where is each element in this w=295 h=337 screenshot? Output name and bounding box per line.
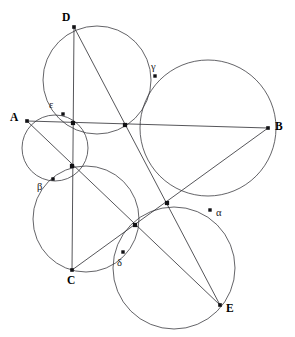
vertex-dot-D	[72, 25, 76, 29]
vertex-dot-C	[70, 268, 74, 272]
geometry-figure: A B C D E α β γ δ ε	[0, 0, 295, 337]
chord-CD	[72, 27, 74, 270]
point-label-delta: δ	[117, 258, 122, 269]
node-dot-left	[70, 164, 74, 168]
node-dot-lower-mid	[133, 223, 137, 227]
point-dot-delta	[121, 250, 124, 253]
vertex-label-D: D	[62, 12, 70, 24]
vertex-label-B: B	[275, 121, 283, 133]
point-dot-gamma	[153, 74, 156, 77]
chord-BC	[72, 128, 268, 270]
vertex-label-A: A	[10, 112, 18, 124]
point-label-gamma: γ	[151, 62, 156, 73]
vertex-label-C: C	[67, 275, 75, 287]
vertex-dots-group	[25, 25, 270, 307]
circle-E	[113, 207, 235, 329]
point-label-alpha: α	[216, 208, 222, 219]
intersection-dots-group	[70, 121, 169, 227]
point-label-epsilon: ε	[49, 100, 53, 111]
point-dot-alpha	[208, 208, 211, 211]
geometry-canvas	[0, 0, 295, 337]
node-dot-right	[165, 201, 169, 205]
vertex-dot-A	[25, 119, 29, 123]
point-dot-epsilon	[61, 112, 64, 115]
node-dot-upper-left	[71, 121, 75, 125]
chords-group	[27, 27, 268, 305]
circles-group	[22, 26, 276, 329]
chord-AE	[27, 121, 220, 305]
node-dot-center	[123, 123, 127, 127]
chord-AB	[27, 121, 268, 128]
point-label-beta: β	[37, 182, 42, 193]
vertex-dot-E	[218, 303, 222, 307]
vertex-label-E: E	[226, 303, 234, 315]
circle-C	[33, 166, 139, 272]
point-dot-beta	[51, 177, 54, 180]
circle-D	[43, 26, 151, 134]
chord-DE	[74, 27, 220, 305]
vertex-dot-B	[266, 126, 270, 130]
